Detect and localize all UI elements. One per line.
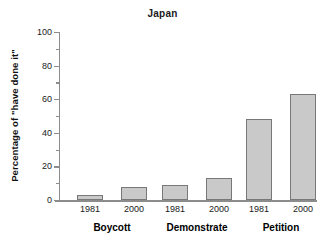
bars-layer [59,30,317,200]
y-tick-label-60: 60 [42,94,52,104]
plot-area: 020406080100 198120001981200019812000 Bo… [59,30,317,200]
year-label-boycott-1981: 1981 [80,204,100,214]
year-label-petition-2000: 2000 [293,204,313,214]
bar-petition-1981 [246,119,272,200]
year-label-petition-1981: 1981 [249,204,269,214]
y-tick-label-100: 100 [37,27,52,37]
y-tick-0 [54,200,59,201]
group-label-petition: Petition [263,222,300,233]
x-axis-year-labels: 198120001981200019812000 [59,204,317,218]
bar-boycott-1981 [77,195,103,200]
bar-boycott-2000 [121,187,147,200]
bar-demonstrate-1981 [162,185,188,200]
y-tick-label-20: 20 [42,161,52,171]
year-label-demonstrate-1981: 1981 [165,204,185,214]
x-axis-group-labels: BoycottDemonstratePetition [59,222,317,238]
y-tick-label-0: 0 [47,195,52,205]
y-tick-label-80: 80 [42,61,52,71]
year-label-demonstrate-2000: 2000 [209,204,229,214]
group-label-boycott: Boycott [93,222,130,233]
y-axis-label-container: Percentage of "have done it" [6,28,22,202]
group-label-demonstrate: Demonstrate [166,222,227,233]
x-axis-line [55,200,317,202]
year-label-boycott-2000: 2000 [124,204,144,214]
chart-title: Japan [0,8,325,19]
y-tick-label-40: 40 [42,128,52,138]
bar-chart: Japan Percentage of "have done it" 02040… [0,0,325,244]
bar-demonstrate-2000 [206,178,232,200]
bar-petition-2000 [290,94,316,200]
y-axis-label: Percentage of "have done it" [9,49,20,182]
